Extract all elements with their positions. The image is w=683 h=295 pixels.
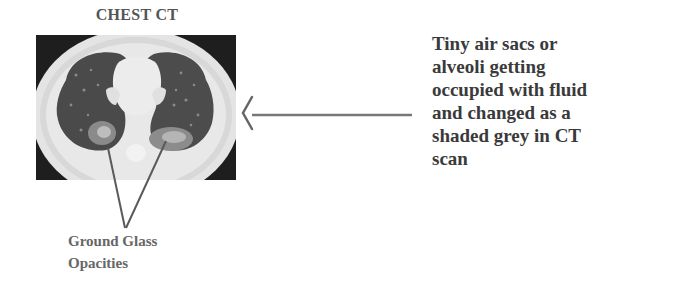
ct-scan-graphic (36, 35, 236, 180)
description-line: shaded grey in CT (432, 124, 672, 147)
description-line: and changed as a (432, 101, 672, 124)
chest-ct-image (36, 35, 236, 180)
arrow-head-icon (243, 97, 252, 129)
description-line: occupied with fluid (432, 78, 672, 101)
figure-title: CHEST CT (72, 6, 202, 24)
ground-glass-label: Ground Glass Opacities (68, 230, 157, 274)
label-line-2: Opacities (68, 252, 157, 274)
description-line: Tiny air sacs or (432, 32, 672, 55)
label-line-1: Ground Glass (68, 230, 157, 252)
description-text: Tiny air sacs or alveoli getting occupie… (432, 32, 672, 170)
description-line: alveoli getting (432, 55, 672, 78)
description-line: scan (432, 147, 672, 170)
